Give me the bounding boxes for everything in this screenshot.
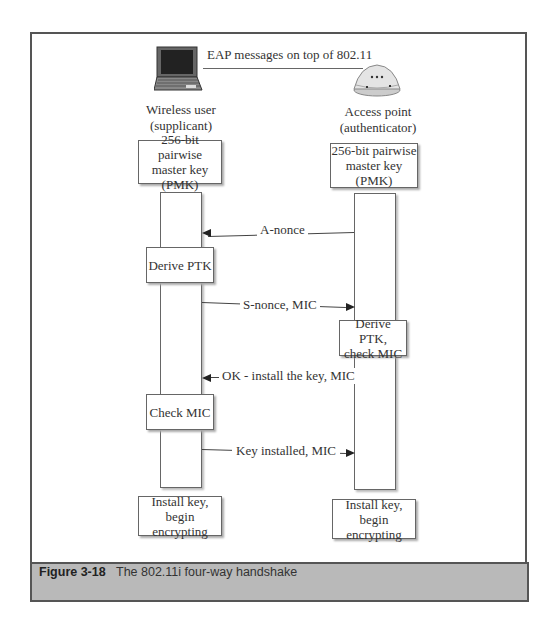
access-point-icon xyxy=(352,63,402,97)
figure-title: The 802.11i four-way handshake xyxy=(116,565,297,579)
step-label: Derive PTK xyxy=(148,258,211,273)
step-label-line2: check MIC xyxy=(340,346,406,361)
step-label-line1: Derive PTK, xyxy=(340,316,406,346)
left-lifeline xyxy=(160,192,202,488)
arrowhead-right-icon xyxy=(346,449,355,457)
left-pmk-line1: 256-bit pairwise xyxy=(139,132,221,162)
left-step-check-mic: Check MIC xyxy=(146,394,214,430)
right-actor-role: (authenticator) xyxy=(323,120,433,136)
message-label: OK - install the key, MIC xyxy=(219,368,358,384)
left-pmk-line2: master key xyxy=(139,162,221,177)
final-line1: Install key, xyxy=(139,494,221,509)
figure-caption: Figure 3-18 The 802.11i four-way handsha… xyxy=(30,562,529,602)
laptop-icon xyxy=(154,46,204,94)
left-final-box: Install key, begin encrypting xyxy=(138,496,222,536)
right-pmk-line3: (PMK) xyxy=(332,173,417,188)
right-pmk-line1: 256-bit pairwise xyxy=(332,143,417,158)
arrowhead-left-icon xyxy=(202,374,211,382)
left-step-derive-ptk: Derive PTK xyxy=(146,247,214,283)
arrowhead-left-icon xyxy=(202,229,211,237)
right-final-box: Install key, begin encrypting xyxy=(332,499,416,539)
final-line1: Install key, xyxy=(333,497,415,512)
left-actor-label: Wireless user (supplicant) xyxy=(131,102,231,134)
left-actor-name: Wireless user xyxy=(131,102,231,118)
left-pmk-box: 256-bit pairwise master key (PMK) xyxy=(138,140,222,184)
eap-link-label: EAP messages on top of 802.11 xyxy=(207,47,372,63)
message-label: S-nonce, MIC xyxy=(240,297,320,313)
right-actor-label: Access point (authenticator) xyxy=(323,104,433,136)
right-pmk-box: 256-bit pairwise master key (PMK) xyxy=(330,143,418,188)
right-step-derive-ptk-check-mic: Derive PTK, check MIC xyxy=(339,320,407,356)
message-label: Key installed, MIC xyxy=(232,443,340,459)
left-pmk-line3: (PMK) xyxy=(139,177,221,192)
message-label: A-nonce xyxy=(257,222,308,238)
final-line2: begin encrypting xyxy=(333,512,415,542)
eap-link-line xyxy=(203,68,363,69)
step-label: Check MIC xyxy=(149,405,210,420)
figure-number: Figure 3-18 xyxy=(39,565,106,579)
right-pmk-line2: master key xyxy=(332,158,417,173)
final-line2: begin encrypting xyxy=(139,509,221,539)
figure-frame xyxy=(30,32,527,600)
right-actor-name: Access point xyxy=(323,104,433,120)
arrowhead-right-icon xyxy=(346,303,355,311)
